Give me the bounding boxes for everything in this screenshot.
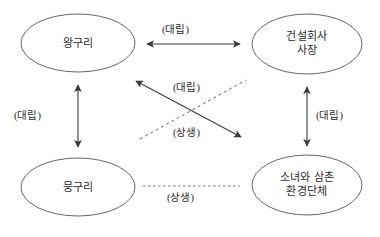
node-ellipse-construction-ceo [252, 14, 362, 74]
edge-diagonal-conflict [136, 81, 241, 137]
relationship-diagram: 왕구리 건설회사 사장 뭉구리 소녀와 삼촌 환경단체 (대립) (대립) (대… [0, 0, 380, 237]
edge-diagonal-harmony [140, 80, 246, 139]
node-ellipse-mungguri [21, 158, 135, 216]
node-ellipse-wangguri [21, 14, 135, 72]
node-ellipse-girl-uncle-env-group [252, 155, 362, 215]
diagram-vector-layer [0, 0, 380, 237]
